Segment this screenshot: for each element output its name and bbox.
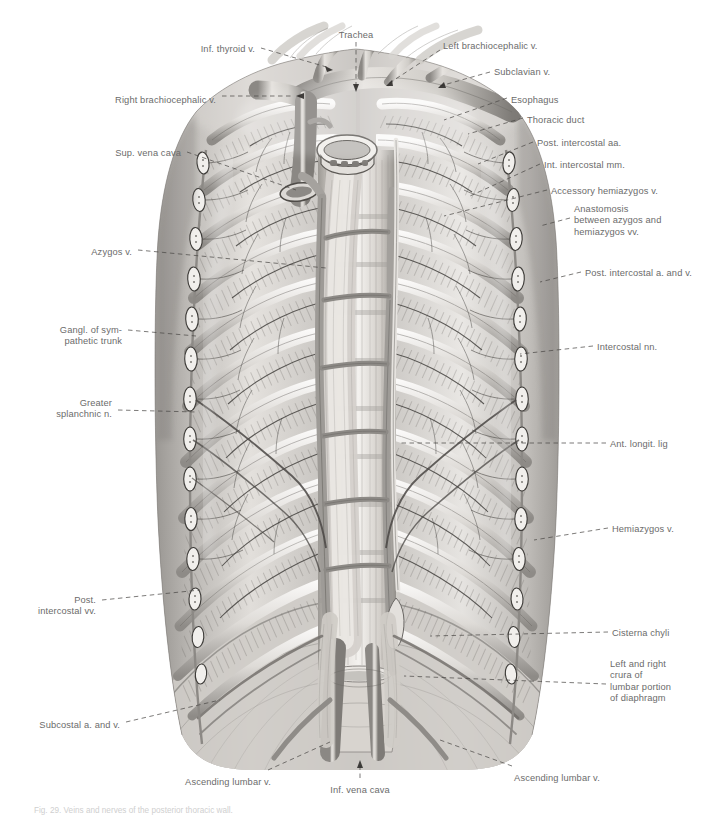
label-post-intercostal-aa[interactable]: Post. intercostal aa.: [537, 138, 697, 149]
leader-azygos-v: [138, 250, 326, 268]
leader-anastomosis: [540, 218, 570, 226]
leader-post-intercostal-a-and-v: [540, 272, 581, 282]
label-left-brachiocephalic-v[interactable]: Left brachiocephalic v.: [443, 41, 593, 52]
label-ascending-lumbar-v-left[interactable]: Ascending lumbar v.: [168, 777, 288, 788]
label-right-brachiocephalic-v[interactable]: Right brachiocephalic v.: [76, 95, 216, 106]
label-azygos-v[interactable]: Azygos v.: [42, 247, 132, 258]
leader-gangl-sympathetic-trunk: [128, 330, 196, 336]
leader-post-intercostal-vv: [102, 590, 200, 600]
label-post-intercostal-vv[interactable]: Post. intercostal vv.: [6, 595, 96, 618]
label-inf-vena-cava[interactable]: Inf. vena cava: [310, 785, 410, 796]
leader-esophagus: [444, 98, 507, 120]
leader-crura: [404, 676, 606, 684]
leader-left-brachiocephalic-v: [388, 50, 440, 84]
leader-subcostal-a-and-v: [126, 700, 220, 722]
label-subclavian-v[interactable]: Subclavian v.: [494, 67, 624, 78]
label-subcostal-a-and-v[interactable]: Subcostal a. and v.: [10, 720, 120, 731]
label-accessory-hemiazygos-v[interactable]: Accessory hemiazygos v.: [551, 186, 713, 197]
leader-thoracic-duct: [468, 118, 523, 134]
label-crura-of-diaphragm[interactable]: Left and right crura of lumbar portion o…: [610, 659, 713, 705]
leader-accessory-hemiazygos-v: [444, 190, 547, 216]
label-post-intercostal-a-and-v[interactable]: Post. intercostal a. and v.: [585, 268, 713, 279]
leader-post-intercostal-aa: [478, 142, 533, 164]
label-ant-longit-lig[interactable]: Ant. longit. lig: [610, 439, 713, 450]
leader-sup-vena-cava: [187, 152, 296, 190]
label-hemiazygos-v[interactable]: Hemiazygos v.: [612, 524, 713, 535]
label-inf-thyroid-v[interactable]: Inf. thyroid v.: [135, 44, 255, 55]
leader-hemiazygos-v: [534, 528, 608, 540]
label-ascending-lumbar-v-right[interactable]: Ascending lumbar v.: [497, 773, 617, 784]
label-anastomosis-azygos-hemiazygos[interactable]: Anastomosis between azygos and hemiazygo…: [574, 204, 713, 238]
leader-int-intercostal-mm: [470, 164, 540, 196]
leader-subclavian-v: [440, 72, 490, 86]
label-sup-vena-cava[interactable]: Sup. vena cava: [81, 148, 181, 159]
leader-ascending-lumbar-v-right: [440, 740, 512, 766]
leader-ascending-lumbar-v-left: [268, 742, 330, 770]
label-trachea[interactable]: Trachea: [306, 30, 406, 41]
label-intercostal-nn[interactable]: Intercostal nn.: [597, 342, 713, 353]
label-gangl-sympathetic-trunk[interactable]: Gangl. of sym- pathetic trunk: [22, 325, 122, 348]
label-thoracic-duct[interactable]: Thoracic duct: [527, 115, 657, 126]
leader-cisterna-chyli: [430, 632, 608, 636]
label-cisterna-chyli[interactable]: Cisterna chyli: [612, 628, 713, 639]
label-greater-splanchnic-n[interactable]: Greater splanchnic n.: [22, 398, 112, 421]
leader-greater-splanchnic-n: [118, 410, 196, 412]
label-int-intercostal-mm[interactable]: Int. intercostal mm.: [544, 160, 704, 171]
leader-intercostal-nn: [520, 346, 593, 354]
label-esophagus[interactable]: Esophagus: [511, 95, 641, 106]
anatomical-plate: Trachea Inf. thyroid v. Left brachioceph…: [0, 0, 713, 819]
figure-caption: Fig. 29. Veins and nerves of the posteri…: [34, 806, 233, 815]
leader-inf-thyroid-v: [261, 48, 330, 68]
